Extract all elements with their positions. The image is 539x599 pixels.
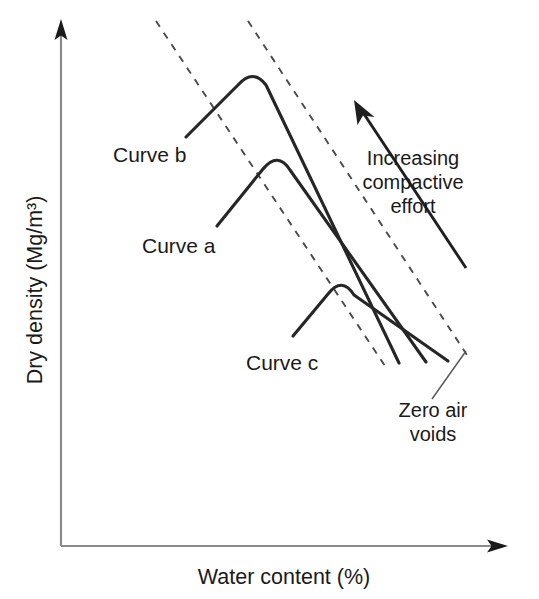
compaction-curves-group xyxy=(186,77,448,364)
effort-arrow-head xyxy=(354,100,375,125)
zero-air-voids-label-line1: Zero air xyxy=(399,399,468,421)
compaction-curve-figure: Dry density (Mg/m³) Water content (%) Cu… xyxy=(0,0,539,599)
increasing-effort-label-line3: effort xyxy=(390,195,436,217)
zero-air-voids-line-left xyxy=(156,21,387,369)
y-axis-label: Dry density (Mg/m³) xyxy=(23,196,47,385)
zero-air-voids-leader-line xyxy=(432,351,466,399)
figure-canvas: Dry density (Mg/m³) Water content (%) Cu… xyxy=(0,0,539,599)
axes-group xyxy=(55,19,509,553)
increasing-effort-label-line2: compactive xyxy=(362,171,463,193)
curve-b-label: Curve b xyxy=(113,143,187,166)
increasing-effort-label-line1: Increasing xyxy=(367,147,459,169)
curve-c-label: Curve c xyxy=(246,351,318,374)
curve-a-label: Curve a xyxy=(142,234,216,257)
zero-air-voids-label-line2: voids xyxy=(410,423,457,445)
x-axis-label: Water content (%) xyxy=(198,565,370,589)
